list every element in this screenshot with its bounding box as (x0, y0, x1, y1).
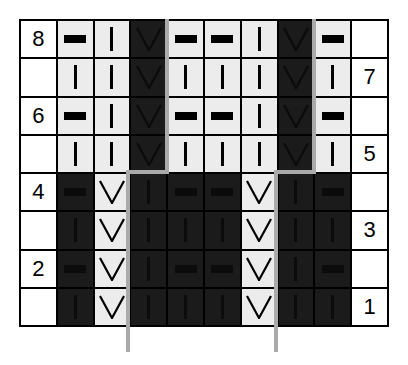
slip-symbol-icon (99, 295, 125, 319)
knit-symbol-icon (331, 218, 334, 242)
purl-symbol-icon (211, 265, 233, 273)
row-number-right (352, 174, 387, 210)
chart-cell (279, 251, 314, 287)
chart-cell (242, 174, 277, 210)
slip-symbol-icon (283, 104, 309, 128)
row-number-left: 6 (21, 98, 56, 134)
chart-cell (168, 21, 203, 57)
chart-cell (131, 289, 166, 325)
chart-cell (168, 289, 203, 325)
purl-symbol-icon (175, 265, 197, 273)
chart-cell (279, 136, 314, 172)
knit-symbol-icon (110, 27, 113, 51)
row-number-left: 8 (21, 21, 56, 57)
chart-cell (168, 174, 203, 210)
chart-cell (242, 289, 277, 325)
chart-cell (315, 251, 350, 287)
knit-symbol-icon (147, 257, 150, 281)
chart-cell (95, 21, 130, 57)
knit-symbol-icon (294, 295, 297, 319)
row-number-left: 2 (21, 251, 56, 287)
slip-symbol-icon (283, 27, 309, 51)
knit-symbol-icon (258, 142, 261, 166)
knit-symbol-icon (147, 295, 150, 319)
knit-symbol-icon (110, 142, 113, 166)
slip-symbol-icon (136, 65, 162, 89)
chart-cell (58, 59, 93, 95)
purl-symbol-icon (322, 188, 344, 196)
purl-symbol-icon (175, 35, 197, 43)
chart-cell (168, 251, 203, 287)
purl-symbol-icon (211, 112, 233, 120)
knit-symbol-icon (258, 104, 261, 128)
chart-cell (95, 98, 130, 134)
repeat-line-right (312, 19, 316, 174)
knit-symbol-icon (294, 257, 297, 281)
chart-cell (58, 98, 93, 134)
knit-symbol-icon (294, 180, 297, 204)
knit-symbol-icon (331, 65, 334, 89)
row-number-right (352, 21, 387, 57)
repeat-line-left (126, 172, 130, 352)
chart-cell (242, 251, 277, 287)
slip-symbol-icon (246, 257, 272, 281)
slip-symbol-icon (246, 295, 272, 319)
knit-symbol-icon (221, 142, 224, 166)
row-number-right (352, 251, 387, 287)
chart-cell (279, 59, 314, 95)
chart-cell (168, 59, 203, 95)
knit-symbol-icon (221, 218, 224, 242)
row-number-right: 1 (352, 289, 387, 325)
knit-symbol-icon (331, 295, 334, 319)
knit-symbol-icon (74, 218, 77, 242)
chart-cell (58, 136, 93, 172)
knit-symbol-icon (221, 65, 224, 89)
row-number-left (21, 212, 56, 248)
purl-symbol-icon (64, 112, 86, 120)
row-number-right: 5 (352, 136, 387, 172)
purl-symbol-icon (64, 188, 86, 196)
purl-symbol-icon (322, 35, 344, 43)
slip-symbol-icon (99, 218, 125, 242)
knit-symbol-icon (147, 218, 150, 242)
slip-symbol-icon (99, 180, 125, 204)
knit-symbol-icon (147, 180, 150, 204)
knit-symbol-icon (258, 65, 261, 89)
chart-cell (242, 98, 277, 134)
chart-cell (315, 21, 350, 57)
row-number-left (21, 136, 56, 172)
row-number-left (21, 289, 56, 325)
chart-cell (315, 212, 350, 248)
repeat-line-right (274, 172, 278, 352)
chart-cell (279, 212, 314, 248)
chart-cell (131, 251, 166, 287)
chart-cell (205, 174, 240, 210)
chart-cell (279, 289, 314, 325)
slip-symbol-icon (246, 180, 272, 204)
chart-cell (95, 174, 130, 210)
row-number-left (21, 59, 56, 95)
knit-symbol-icon (184, 295, 187, 319)
chart-cell (279, 98, 314, 134)
knit-symbol-icon (110, 104, 113, 128)
chart-cell (205, 59, 240, 95)
slip-symbol-icon (246, 218, 272, 242)
knit-symbol-icon (258, 27, 261, 51)
row-number-right: 3 (352, 212, 387, 248)
chart-cell (279, 174, 314, 210)
chart-cell (131, 136, 166, 172)
chart-cell (131, 21, 166, 57)
knit-symbol-icon (110, 65, 113, 89)
knit-symbol-icon (74, 65, 77, 89)
knitting-chart-grid: 87654321 (19, 19, 389, 327)
row-number-right: 7 (352, 59, 387, 95)
purl-symbol-icon (322, 265, 344, 273)
chart-cell (95, 251, 130, 287)
chart-cell (315, 59, 350, 95)
knit-symbol-icon (184, 218, 187, 242)
slip-symbol-icon (283, 142, 309, 166)
chart-cell (205, 289, 240, 325)
repeat-line-left (126, 170, 169, 174)
knit-symbol-icon (184, 65, 187, 89)
slip-symbol-icon (99, 257, 125, 281)
